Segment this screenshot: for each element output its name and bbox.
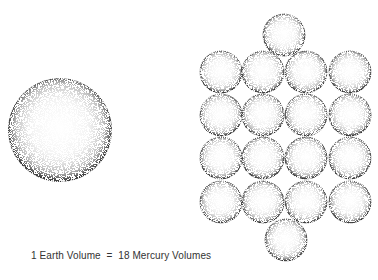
mercury-circle xyxy=(329,51,372,94)
mercury-circle xyxy=(285,51,328,94)
mercury-circle xyxy=(285,137,328,180)
mercury-circle xyxy=(329,137,372,180)
mercury-circle xyxy=(242,94,285,137)
mercury-circle xyxy=(329,181,372,224)
mercury-circle xyxy=(200,181,243,224)
mercury-circle xyxy=(200,137,243,180)
mercury-circle xyxy=(242,181,285,224)
earth-sphere xyxy=(8,78,112,182)
mercury-circle xyxy=(285,94,328,137)
earth-circle xyxy=(8,78,112,182)
mercury-circle xyxy=(285,181,328,224)
mercury-circle xyxy=(242,51,285,94)
mercury-circle xyxy=(200,51,243,94)
mercury-circle xyxy=(200,94,243,137)
mercury-circle xyxy=(263,14,306,57)
mercury-spheres xyxy=(200,14,372,262)
mercury-circle xyxy=(329,94,372,137)
caption: 1 Earth Volume = 18 Mercury Volumes xyxy=(31,250,211,261)
mercury-circle xyxy=(242,137,285,180)
mercury-circle xyxy=(265,219,308,262)
volume-comparison-diagram xyxy=(0,0,378,280)
